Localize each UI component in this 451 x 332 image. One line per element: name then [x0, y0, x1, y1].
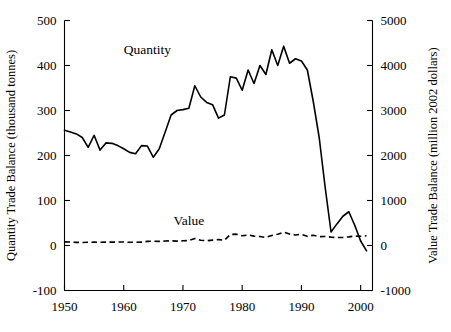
left-tick-label: -100 [33, 283, 57, 298]
value-series-line [65, 232, 367, 242]
quantity-series-label: Quantity [124, 42, 171, 57]
left-axis-tick-labels: -1000100200300400500 [33, 13, 57, 298]
right-tick-label: 5000 [381, 13, 407, 28]
x-tick-label: 1960 [111, 299, 137, 314]
right-axis-tick-labels: -1000010002000300040005000 [381, 13, 411, 298]
x-tick-label: 1980 [229, 299, 255, 314]
chart-container: -1000100200300400500 -100001000200030004… [0, 0, 451, 332]
right-tick-label: 1000 [381, 193, 407, 208]
x-tick-label: 2000 [348, 299, 374, 314]
right-axis-ticks [367, 21, 373, 291]
x-axis-tick-labels: 195019601970198019902000 [52, 299, 374, 314]
axes-group [65, 21, 373, 291]
left-tick-label: 500 [37, 13, 57, 28]
quantity-series-line [65, 46, 367, 251]
right-tick-label: 4000 [381, 58, 407, 73]
left-tick-label: 400 [37, 58, 57, 73]
left-tick-label: 300 [37, 103, 57, 118]
x-tick-label: 1950 [52, 299, 78, 314]
left-tick-label: 200 [37, 148, 57, 163]
right-axis-title: Value Trade Balance (million 2002 dollar… [426, 47, 440, 263]
right-tick-label: 3000 [381, 103, 407, 118]
trade-balance-line-chart: -1000100200300400500 -100001000200030004… [0, 0, 451, 332]
x-tick-label: 1990 [288, 299, 314, 314]
left-tick-label: 0 [50, 238, 57, 253]
value-series-label: Value [174, 213, 205, 228]
right-tick-label: 2000 [381, 148, 407, 163]
left-tick-label: 100 [37, 193, 57, 208]
right-tick-label: 0 [381, 238, 388, 253]
x-tick-label: 1970 [170, 299, 196, 314]
left-axis-title: Quantity Trade Balance (thousand tonnes) [4, 50, 18, 261]
right-tick-label: -1000 [381, 283, 411, 298]
x-axis-ticks [65, 285, 361, 291]
left-axis-ticks [65, 21, 71, 291]
